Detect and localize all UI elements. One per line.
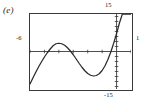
panel-label: (e) — [3, 6, 14, 15]
x-max-label: 1 — [136, 35, 139, 42]
x-min-label: -6 — [16, 35, 21, 42]
figure-panel: (e) 15 -15 -6 1 — [0, 0, 146, 101]
plot-svg — [30, 14, 131, 89]
data-curve — [30, 14, 131, 84]
plot-frame — [29, 13, 133, 91]
y-min-label: -15 — [104, 92, 113, 99]
y-max-label: 15 — [105, 2, 112, 9]
plot-area — [30, 14, 132, 90]
axes-group — [30, 14, 131, 89]
curve-group — [30, 14, 131, 84]
